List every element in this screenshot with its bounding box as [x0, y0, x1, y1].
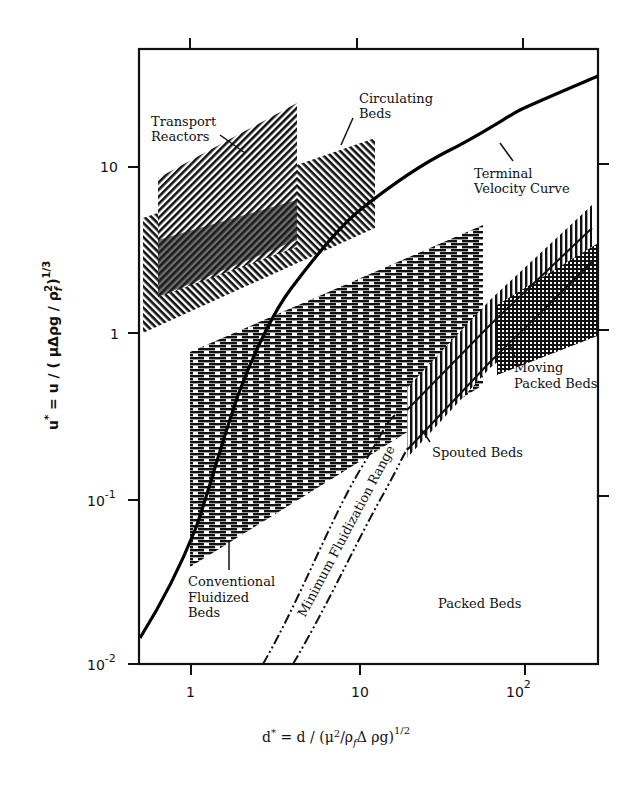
- label-packed-beds: Packed Beds: [438, 596, 521, 611]
- label-circulating-beds-1: Circulating: [359, 91, 433, 106]
- label-transport-reactors-1: Transport: [151, 114, 217, 129]
- x-axis-title: d* = d / (μ2/ρfΔ ρg)1/2: [262, 725, 410, 748]
- y-axis-title: u* = u / ( μΔρg / ρf2)1/3: [41, 261, 64, 430]
- label-transport-reactors-2: Reactors: [151, 129, 209, 144]
- leader-terminal-velocity: [500, 143, 513, 161]
- y-tick-0.01: 10-2: [87, 652, 116, 673]
- label-circulating-beds-2: Beds: [359, 106, 391, 121]
- label-terminal-velocity-1: Terminal: [474, 166, 532, 181]
- y-tick-0.1: 10-1: [87, 488, 116, 509]
- label-spouted-beds: Spouted Beds: [432, 445, 523, 460]
- label-terminal-velocity-2: Velocity Curve: [473, 181, 570, 196]
- label-conventional-2: Fluidized: [188, 590, 249, 605]
- fluidization-regime-chart: 10 1 10-1 10-2 1 10 102 d* = d / (μ2/ρfΔ…: [0, 0, 638, 788]
- label-moving-packed-beds-1: Moving: [514, 360, 563, 375]
- y-tick-10: 10: [100, 159, 118, 175]
- x-tick-100: 102: [506, 678, 531, 700]
- label-conventional-1: Conventional: [188, 574, 275, 589]
- label-moving-packed-beds-2: Packed Beds: [514, 376, 597, 391]
- leader-circulating-beds: [341, 118, 353, 145]
- y-axis-title-group: u* = u / ( μΔρg / ρf2)1/3: [41, 261, 64, 430]
- y-tick-1: 1: [110, 326, 119, 342]
- x-tick-10: 10: [351, 684, 369, 700]
- x-tick-1: 1: [186, 684, 195, 700]
- label-conventional-3: Beds: [188, 605, 220, 620]
